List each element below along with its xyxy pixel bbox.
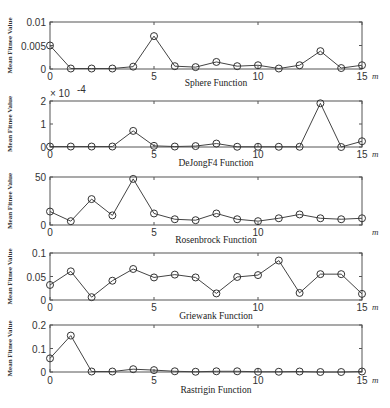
subplot-title: Rosenbrock Function: [175, 235, 257, 245]
y-tick-label: 0.01: [27, 17, 47, 28]
axes-box: [50, 325, 362, 372]
x-axis-label: m: [372, 71, 379, 81]
x-axis-label: m: [372, 302, 379, 312]
x-tick-label: 5: [151, 375, 157, 386]
subplot-griewank-function: 05101500.050.1Griewank FunctionmMean Fit…: [6, 248, 379, 321]
data-line: [50, 36, 362, 68]
x-axis-label: m: [372, 227, 379, 237]
data-line: [50, 103, 362, 147]
y-tick-label: 0.05: [27, 272, 47, 283]
data-line: [50, 336, 362, 372]
x-tick-label: 5: [151, 149, 157, 160]
y-tick-label: 0: [40, 64, 46, 75]
subplot-title: Rastrigin Function: [181, 385, 252, 395]
x-tick-label: 10: [252, 302, 264, 313]
x-tick-label: 0: [47, 71, 53, 82]
x-tick-label: 15: [356, 302, 368, 313]
subplot-sphere-function: 05101500.0050.01Sphere FunctionmMean Fit…: [6, 17, 379, 88]
x-tick-label: 15: [356, 375, 368, 386]
data-line: [50, 261, 362, 298]
y-axis-label: Mean Fitnee Value: [6, 249, 14, 305]
chart-figure: 05101500.0050.01Sphere FunctionmMean Fit…: [0, 0, 390, 408]
subplot-title: Griewank Function: [179, 311, 253, 321]
y-tick-label: 0: [40, 367, 46, 378]
x-tick-label: 0: [47, 375, 53, 386]
y-tick-label: 0.2: [32, 320, 46, 331]
y-tick-label: 0: [40, 220, 46, 231]
y-axis-label: Mean Fitnee Value: [6, 18, 14, 74]
x-tick-label: 5: [151, 302, 157, 313]
y-axis-label: Mean Fitnee Value: [6, 321, 14, 377]
y-axis-label: Mean Fitnee Value: [6, 173, 14, 229]
y-tick-label: 1: [40, 119, 46, 130]
y-tick-label: 50: [35, 172, 47, 183]
y-tick-label: 0: [40, 295, 46, 306]
x-axis-label: m: [372, 149, 379, 159]
subplot-rosenbrock-function: 0510050Rosenbrock FunctionmMean Fitnee V…: [6, 172, 379, 245]
y-tick-label: 2: [40, 96, 46, 107]
x-tick-label: 15: [356, 149, 368, 160]
x-tick-label: 5: [151, 227, 157, 238]
y-tick-label: 0: [40, 142, 46, 153]
x-tick-label: 10: [252, 71, 264, 82]
subplot-title: Sphere Function: [185, 78, 248, 88]
subplot-rastrigin-function: 05101500.10.2Rastrigin FunctionmMean Fit…: [6, 320, 379, 395]
x-tick-label: 0: [47, 302, 53, 313]
subplot-dejongf4-function: 051015012× 10-4DeJongF4 FunctionmMean Fi…: [6, 84, 379, 168]
x-tick-label: 5: [151, 71, 157, 82]
axes-box: [50, 22, 362, 69]
y-multiplier-label: × 10: [50, 88, 70, 99]
data-line: [50, 179, 362, 221]
x-tick-label: 15: [356, 71, 368, 82]
x-tick-label: 0: [47, 149, 53, 160]
y-axis-label: Mean Fitnee Value: [6, 96, 14, 152]
subplot-title: DeJongF4 Function: [178, 158, 253, 168]
y-tick-label: 0.1: [32, 344, 46, 355]
x-tick-label: 0: [47, 227, 53, 238]
svg-text:-4: -4: [77, 84, 86, 95]
y-tick-label: 0.1: [32, 248, 46, 259]
axes-box: [50, 101, 362, 147]
x-tick-label: 10: [252, 375, 264, 386]
y-tick-label: 0.005: [21, 41, 46, 52]
x-axis-label: m: [372, 375, 379, 385]
